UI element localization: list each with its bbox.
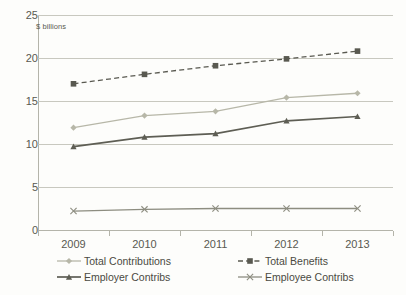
series-employer-contribs (70, 113, 360, 149)
series-layer (0, 0, 406, 295)
data-point-marker-diamond (354, 90, 360, 96)
data-point-marker-diamond (66, 258, 72, 264)
legend-label: Employer Contribs (84, 271, 170, 283)
data-point-marker-square (355, 48, 361, 54)
data-point-marker-square (71, 81, 77, 87)
data-point-marker-square (247, 258, 253, 264)
legend-swatch-triangle-icon (56, 271, 82, 283)
legend-label: Total Contributions (84, 255, 171, 267)
series-total-contributions (70, 90, 360, 131)
line-chart: 0510152025 20092010201120122013 $ billio… (0, 0, 406, 295)
data-point-marker-square (284, 56, 290, 62)
legend-item-employer-contribs[interactable]: Employer Contribs (38, 269, 219, 285)
legend-item-total-benefits[interactable]: Total Benefits (219, 253, 400, 269)
data-point-marker-diamond (283, 94, 289, 100)
data-point-marker-diamond (212, 108, 218, 114)
series-total-benefits (71, 48, 361, 86)
data-point-marker-diamond (70, 125, 76, 131)
legend-swatch-square-icon (237, 255, 263, 267)
legend-label: Total Benefits (265, 255, 328, 267)
data-point-marker-diamond (141, 113, 147, 119)
legend-swatch-cross-icon (237, 271, 263, 283)
legend-item-total-contributions[interactable]: Total Contributions (38, 253, 219, 269)
data-point-marker-square (142, 72, 148, 78)
legend-item-employee-contribs[interactable]: Employee Contribs (219, 269, 400, 285)
legend-swatch-diamond-icon (56, 255, 82, 267)
legend-label: Employee Contribs (265, 271, 354, 283)
data-point-marker-square (213, 63, 219, 69)
series-employee-contribs (70, 205, 360, 214)
chart-legend: Total ContributionsTotal BenefitsEmploye… (38, 253, 400, 285)
